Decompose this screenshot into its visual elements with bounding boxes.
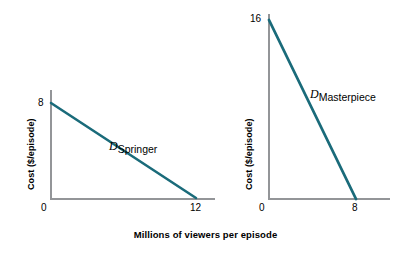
x-tick-label-springer-12: 12 bbox=[190, 203, 201, 213]
x-tick-label-masterpiece-8: 8 bbox=[352, 203, 358, 213]
curve-label-springer-variable: D bbox=[109, 139, 118, 153]
y-axis-title-masterpiece: Cost ($/episode) bbox=[244, 118, 254, 190]
y-axis-title-springer: Cost ($/episode) bbox=[26, 118, 36, 190]
curve-label-springer: DSpringer bbox=[109, 140, 157, 152]
x-axis-line-masterpiece bbox=[268, 198, 390, 200]
x-axis-line-springer bbox=[50, 198, 215, 200]
y-tick-label-masterpiece-16: 16 bbox=[250, 14, 261, 24]
curve-label-masterpiece: DMasterpiece bbox=[310, 88, 376, 100]
y-axis-line-masterpiece bbox=[268, 14, 270, 199]
curve-label-masterpiece-variable: D bbox=[310, 87, 319, 101]
x-tick-label-springer-0: 0 bbox=[41, 203, 47, 213]
x-axis-title: Millions of viewers per episode bbox=[0, 229, 411, 240]
x-tick-label-masterpiece-0: 0 bbox=[259, 203, 265, 213]
y-tick-label-springer-8: 8 bbox=[38, 98, 44, 108]
chart-panel-masterpiece: Cost ($/episode) 16 0 8 bbox=[218, 0, 411, 215]
curve-label-springer-subscript: Springer bbox=[118, 143, 158, 155]
curve-label-masterpiece-subscript: Masterpiece bbox=[319, 91, 376, 103]
y-axis-line-springer bbox=[50, 90, 52, 199]
demand-curves-figure: Cost ($/episode) 8 0 12 Cost ($/episode)… bbox=[0, 0, 411, 255]
chart-panel-springer: Cost ($/episode) 8 0 12 bbox=[0, 0, 228, 215]
